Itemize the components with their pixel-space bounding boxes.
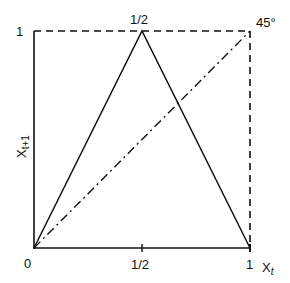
x-tick-label-half: 1/2 — [131, 257, 149, 272]
y-axis-label-sub: t+1 — [20, 135, 31, 150]
x-axis-label-main: X — [262, 260, 271, 275]
y-axis-label-main: X — [14, 149, 29, 158]
x-tick-label-zero: 0 — [24, 256, 31, 271]
y-tick-label-one: 1 — [16, 24, 23, 39]
x-axis-label-sub: t — [271, 266, 275, 277]
tent-map-diagram: 1 1/2 45° 0 1/2 1 Xt Xt+1 — [0, 0, 290, 283]
y-axis-label: Xt+1 — [14, 135, 31, 158]
diagonal-label: 45° — [256, 15, 276, 30]
x-tick-label-one: 1 — [246, 257, 253, 272]
svg-text:Xt: Xt — [262, 260, 275, 277]
x-axis-label: Xt — [262, 260, 275, 277]
45-degree-line — [34, 31, 250, 248]
svg-text:Xt+1: Xt+1 — [14, 135, 31, 158]
peak-label: 1/2 — [130, 12, 148, 27]
